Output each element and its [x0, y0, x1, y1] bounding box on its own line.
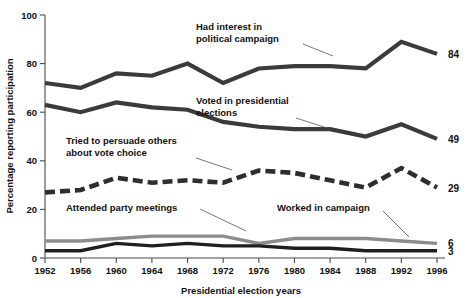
annotation-persuade-line2: about vote choice: [66, 147, 147, 158]
x-tick-label-1988: 1988: [355, 265, 376, 276]
x-tick-label-1980: 1980: [284, 265, 305, 276]
leader-line-worked: [383, 211, 409, 237]
end-label-4: 3: [448, 246, 454, 257]
line-chart: 020406080100 195219561960196419681972197…: [0, 0, 473, 298]
y-tick-label-40: 40: [26, 155, 37, 166]
x-tick-label-1992: 1992: [391, 265, 412, 276]
annotation-attended-line1: Attended party meetings: [66, 202, 177, 213]
series-line-0: [45, 42, 437, 88]
x-tick-label-1952: 1952: [34, 265, 55, 276]
y-axis-title: Percentage reporting participation: [4, 58, 15, 213]
x-tick-label-1996: 1996: [426, 265, 447, 276]
leader-line-persuade: [196, 158, 232, 170]
y-tick-label-0: 0: [32, 253, 37, 264]
y-tick-label-20: 20: [26, 204, 37, 215]
leader-line-had-interest: [303, 44, 333, 56]
y-axis-ticks: [40, 15, 45, 258]
x-tick-label-1964: 1964: [141, 265, 163, 276]
annotation-worked: Worked in campaign: [277, 202, 370, 213]
x-axis-ticks: [45, 258, 437, 263]
x-tick-label-1976: 1976: [248, 265, 269, 276]
series-line-3: [45, 236, 437, 243]
x-axis-title: Presidential election years: [181, 285, 301, 296]
y-tick-label-80: 80: [26, 58, 37, 69]
chart-container: 020406080100 195219561960196419681972197…: [0, 0, 473, 298]
series-end-value-labels: 84492963: [448, 49, 460, 257]
x-tick-label-1960: 1960: [106, 265, 127, 276]
x-tick-label-1972: 1972: [213, 265, 234, 276]
annotation-had-interest-line1: Had interest in: [196, 21, 262, 32]
end-label-1: 49: [448, 134, 460, 145]
leader-line-attended: [200, 209, 246, 231]
end-label-0: 84: [448, 49, 460, 60]
y-axis-tick-labels: 020406080100: [21, 10, 37, 264]
annotation-worked-line1: Worked in campaign: [277, 202, 370, 213]
annotation-voted: Voted in presidential elections: [196, 95, 289, 118]
x-tick-label-1984: 1984: [320, 265, 342, 276]
annotation-persuade: Tried to persuade others about vote choi…: [66, 135, 177, 158]
annotation-attended: Attended party meetings: [66, 202, 177, 213]
annotation-had-interest-line2: political campaign: [196, 33, 279, 44]
series-line-1: [45, 102, 437, 138]
annotation-had-interest: Had interest in political campaign: [196, 21, 279, 44]
end-label-2: 29: [448, 183, 460, 194]
annotation-voted-line1: Voted in presidential: [196, 95, 289, 106]
x-tick-label-1956: 1956: [70, 265, 91, 276]
leader-line-voted: [296, 118, 327, 128]
y-tick-label-60: 60: [26, 107, 37, 118]
annotation-voted-line2: elections: [196, 107, 237, 118]
series-line-2: [45, 168, 437, 192]
y-tick-label-100: 100: [21, 10, 37, 21]
annotation-persuade-line1: Tried to persuade others: [66, 135, 177, 146]
series-line-4: [45, 243, 437, 250]
x-tick-label-1968: 1968: [177, 265, 198, 276]
x-axis-tick-labels: 1952195619601964196819721976198019841988…: [34, 265, 447, 276]
